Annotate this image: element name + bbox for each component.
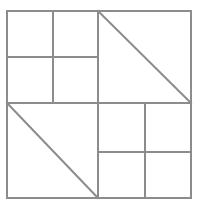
quilt-block-diagram (0, 0, 198, 208)
top-right-diagonal (98, 11, 191, 103)
bottom-left-diagonal (7, 103, 98, 198)
